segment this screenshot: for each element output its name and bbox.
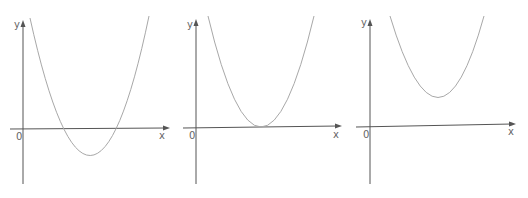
panel-3-origin-label: 0 (363, 130, 369, 140)
panel-2-x-arrow-icon (335, 124, 342, 129)
panel-1-y-arrow-icon (21, 20, 26, 27)
parabola-figure (0, 0, 528, 198)
panel-3-y-arrow-icon (368, 19, 373, 26)
panel-3-graph (356, 16, 516, 184)
panel-2-graph (183, 16, 342, 184)
panel-1-x-axis (10, 128, 166, 129)
panel-2-y-arrow-icon (194, 19, 199, 26)
panel-1-parabola (30, 16, 149, 156)
panel-3-parabola (390, 16, 484, 98)
panel-3-y-label: y (361, 18, 367, 28)
panel-3-x-axis (356, 124, 512, 127)
panel-2-origin-label: 0 (189, 131, 195, 141)
panel-2-y-label: y (187, 20, 193, 30)
panel-1-y-label: y (14, 20, 20, 30)
panel-1-graph (10, 16, 170, 184)
panel-1-x-label: x (159, 131, 165, 141)
panel-2-parabola (208, 16, 314, 127)
panel-3-x-label: x (508, 127, 514, 137)
panel-1-origin-label: 0 (16, 132, 22, 142)
panel-2-x-label: x (333, 130, 339, 140)
